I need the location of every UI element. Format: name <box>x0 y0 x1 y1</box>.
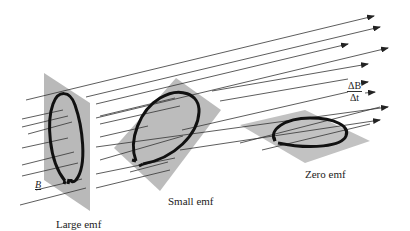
rate-denominator: Δt <box>347 92 362 103</box>
field-line-icon <box>26 16 374 100</box>
field-line-icon <box>96 48 388 118</box>
field-line-icon <box>220 79 348 101</box>
field-line-icon <box>212 64 368 91</box>
caption-zero-emf: Zero emf <box>305 168 346 180</box>
rate-of-change-label: ΔB Δt <box>347 80 362 103</box>
caption-large-emf: Large emf <box>56 218 101 230</box>
rate-numerator: ΔB <box>347 80 362 92</box>
caption-small-emf: Small emf <box>168 195 214 207</box>
field-line-icon <box>86 27 380 97</box>
field-label: B <box>35 179 41 190</box>
emf-diagram: B ΔB Δt Large emf Small emf Zero emf <box>0 0 410 231</box>
field-line-icon <box>365 92 375 93</box>
